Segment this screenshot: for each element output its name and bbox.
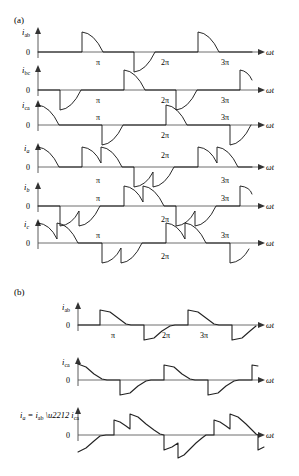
trace-i-ab-b: iab 0 π 2π 3π ωt: [62, 302, 275, 340]
x-axis-label: ωt: [266, 239, 275, 248]
tick-3pi: 3π: [200, 331, 208, 340]
x-axis-arrow: [258, 432, 265, 438]
zero-label: 0: [26, 239, 30, 248]
signal-label: ica: [22, 100, 30, 111]
trace-i-a-a: ia 0 π 2π 3π ωt: [24, 143, 275, 187]
trace-i-ca-b: ica 0 ωt: [62, 357, 275, 395]
y-axis-arrow: [35, 182, 41, 189]
x-axis-arrow: [258, 164, 265, 170]
x-axis-arrow: [258, 377, 265, 383]
tick-pi: π: [96, 176, 100, 185]
y-axis-arrow: [35, 143, 41, 150]
waveform-path: [78, 364, 258, 395]
y-axis-arrow: [35, 27, 41, 34]
zero-label: 0: [26, 163, 30, 172]
zero-label: 0: [26, 48, 30, 57]
waveform-path: [38, 105, 251, 145]
x-axis-label: ωt: [266, 202, 275, 211]
tick-3pi: 3π: [221, 194, 229, 203]
tick-3pi: 3π: [221, 58, 229, 67]
tick-3pi: 3π: [221, 176, 229, 185]
figure-root: (a) iab 0 π 2π 3π ωt ibc 0 π 2π 3π ωt ic…: [0, 0, 299, 476]
tick-2pi: 2π: [161, 131, 169, 140]
signal-label: ib: [24, 182, 29, 193]
tick-pi: π: [96, 96, 100, 105]
x-axis-label: ωt: [266, 163, 275, 172]
signal-label: iab: [62, 302, 70, 313]
zero-label: 0: [26, 86, 30, 95]
tick-2pi: 2π: [161, 215, 169, 224]
signal-label-equation: ia = iab \u2212 ica: [20, 410, 79, 421]
x-axis-label: ωt: [266, 376, 275, 385]
tick-pi: π: [96, 58, 100, 67]
tick-pi: π: [96, 194, 100, 203]
tick-pi: π: [96, 113, 100, 122]
signal-label: ic: [24, 219, 29, 230]
tick-2pi: 2π: [161, 58, 169, 67]
signal-label: ia: [24, 143, 29, 154]
tick-3pi: 3π: [221, 231, 229, 240]
tick-2pi: 2π: [161, 252, 169, 261]
x-axis-label: ωt: [266, 121, 275, 130]
trace-i-a-diff-b: ia = iab \u2212 ica 0 ωt: [20, 407, 275, 458]
x-axis-arrow: [258, 240, 265, 246]
y-axis-arrow: [35, 65, 41, 72]
tick-3pi: 3π: [221, 96, 229, 105]
tick-2pi: 2π: [161, 151, 169, 160]
x-axis-arrow: [258, 203, 265, 209]
x-axis-label: ωt: [266, 431, 275, 440]
panel-a-label: (a): [14, 15, 24, 25]
panel-b-label: (b): [14, 287, 25, 297]
trace-i-ab-a: iab 0 π 2π 3π ωt: [22, 27, 275, 72]
trace-i-b-a: ib 0 π 2π 3π ωt: [24, 182, 275, 226]
x-axis-label: ωt: [266, 48, 275, 57]
y-axis-arrow: [35, 100, 41, 107]
trace-i-bc-a: ibc 0 π 2π 3π ωt: [22, 65, 275, 110]
signal-label: iab: [22, 27, 30, 38]
x-axis-arrow: [258, 322, 265, 328]
tick-pi: π: [111, 331, 115, 340]
tick-2pi: 2π: [161, 96, 169, 105]
tick-pi: π: [96, 231, 100, 240]
zero-label: 0: [66, 376, 70, 385]
y-axis-arrow: [35, 219, 41, 226]
x-axis-arrow: [258, 122, 265, 128]
x-axis-label: ωt: [266, 86, 275, 95]
signal-label: ibc: [22, 65, 30, 76]
y-axis-arrow: [75, 357, 81, 364]
signal-label: ica: [62, 357, 70, 368]
waveform-path: [78, 414, 264, 458]
zero-label: 0: [66, 431, 70, 440]
x-axis-label: ωt: [266, 321, 275, 330]
zero-label: 0: [66, 321, 70, 330]
x-axis-arrow: [258, 49, 265, 55]
y-axis-arrow: [75, 302, 81, 309]
tick-3pi: 3π: [221, 113, 229, 122]
tick-2pi: 2π: [162, 331, 170, 340]
zero-label: 0: [26, 202, 30, 211]
x-axis-arrow: [258, 87, 265, 93]
y-axis-arrow: [75, 407, 81, 414]
zero-label: 0: [26, 121, 30, 130]
